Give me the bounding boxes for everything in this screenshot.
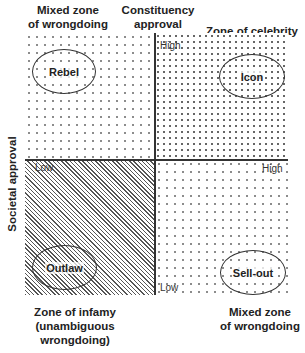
tick-y-low: Low [160,282,178,293]
tick-x-low: Low [35,162,53,173]
zone-label-top-left: Mixed zone of wrongdoing [18,3,118,31]
ellipse-rebel: Rebel [32,49,96,94]
x-axis-title: Constituency approval [118,3,198,31]
label-rebel: Rebel [48,66,80,78]
ellipse-outlaw: Outlaw [32,245,97,290]
label-icon: Icon [240,71,265,83]
quadrant-top-left [25,33,155,160]
zone-label-bottom-left: Zone of infamy (unambiguous wrongdoing) [20,305,130,347]
tick-x-high: High [262,163,283,174]
ellipse-sellout: Sell-out [220,250,286,295]
zone-label-line: Mixed zone [220,305,300,319]
zone-label-bottom-right: Mixed zone of wrongdoing [220,305,300,333]
zone-label-line: (unambiguous [20,319,130,333]
zone-label-line: Mixed zone [18,3,118,17]
ellipse-icon: Icon [219,54,285,99]
x-axis-title-text: Constituency approval [122,4,195,30]
horizontal-axis [25,159,288,161]
label-sellout: Sell-out [232,267,274,279]
zone-label-line: of wrongdoing [18,17,118,31]
zone-label-line: wrongdoing) [20,333,130,347]
label-outlaw: Outlaw [45,262,84,274]
quadrant-top-right [155,33,288,160]
zone-label-line: Zone of infamy [20,305,130,319]
vertical-axis [154,33,156,295]
y-axis-title: Societal approval [6,134,18,234]
zone-label-line: of wrongdoing [220,319,300,333]
tick-y-high: High [160,40,181,51]
